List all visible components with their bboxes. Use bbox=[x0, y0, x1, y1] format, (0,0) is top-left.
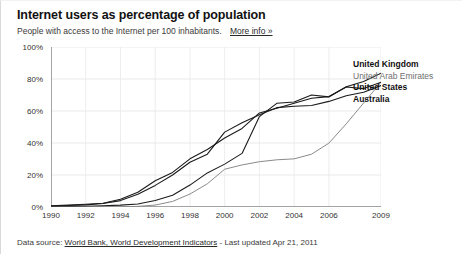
legend-item[interactable]: United Arab Emirates bbox=[353, 71, 459, 83]
y-axis: 0%20%40%60%80%100% bbox=[17, 47, 47, 207]
series-line bbox=[51, 86, 381, 206]
data-source-link[interactable]: World Bank, World Development Indicators bbox=[65, 238, 218, 247]
x-axis-tick-label: 2006 bbox=[320, 211, 338, 220]
x-axis-tick-label: 1996 bbox=[146, 211, 164, 220]
x-axis-tick-label: 1992 bbox=[77, 211, 95, 220]
line-chart-svg bbox=[51, 47, 381, 207]
legend-item[interactable]: Australia bbox=[353, 94, 459, 106]
y-axis-tick-label: 100% bbox=[23, 43, 43, 52]
more-info-link[interactable]: More info » bbox=[230, 26, 273, 36]
y-axis-tick-label: 40% bbox=[27, 139, 43, 148]
x-axis: 1990199219941996199820002002200420062009 bbox=[51, 211, 381, 225]
footer-note: Data source: World Bank, World Developme… bbox=[17, 238, 318, 247]
chart-card: Internet users as percentage of populati… bbox=[0, 0, 462, 254]
x-axis-tick-label: 1994 bbox=[112, 211, 130, 220]
chart-subtitle: People with access to the Internet per 1… bbox=[17, 26, 222, 36]
legend-item[interactable]: United Kingdom bbox=[353, 59, 459, 71]
page-title: Internet users as percentage of populati… bbox=[17, 8, 266, 22]
x-axis-tick-label: 2000 bbox=[216, 211, 234, 220]
chart-subtitle-row: People with access to the Internet per 1… bbox=[17, 26, 273, 36]
x-axis-tick-label: 2009 bbox=[372, 211, 390, 220]
y-axis-tick-label: 80% bbox=[27, 75, 43, 84]
y-axis-tick-label: 20% bbox=[27, 171, 43, 180]
x-axis-tick-label: 2004 bbox=[285, 211, 303, 220]
footer-suffix: - Last updated Apr 21, 2011 bbox=[220, 238, 318, 247]
x-axis-tick-label: 1998 bbox=[181, 211, 199, 220]
legend-item[interactable]: United States bbox=[353, 82, 459, 94]
x-axis-tick-label: 1990 bbox=[42, 211, 60, 220]
legend: United KingdomUnited Arab EmiratesUnited… bbox=[353, 59, 459, 105]
footer-prefix: Data source: bbox=[17, 238, 62, 247]
x-axis-tick-label: 2002 bbox=[251, 211, 269, 220]
plot-area: 0%20%40%60%80%100% 199019921994199619982… bbox=[17, 47, 385, 223]
y-axis-tick-label: 60% bbox=[27, 107, 43, 116]
